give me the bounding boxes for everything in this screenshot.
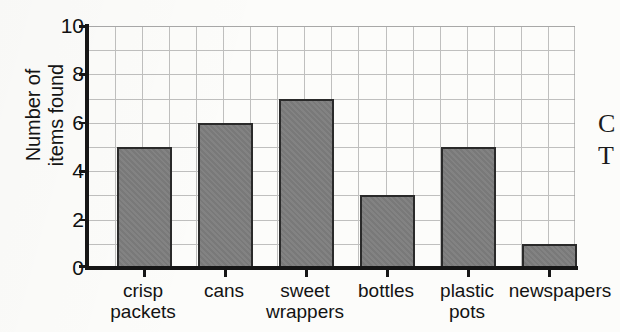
x-tick-mark-cans <box>224 269 227 277</box>
x-axis-label-sweet-wrappers: sweet wrappers <box>265 280 345 322</box>
y-tick-mark-2 <box>79 219 87 222</box>
bar-plastic-pots[interactable] <box>441 147 496 268</box>
x-tick-mark-sweet-wrappers <box>305 269 308 277</box>
chart-page: Number of items found 10 8 6 4 2 0 <box>0 0 620 332</box>
cropped-side-text: C T <box>598 108 620 172</box>
x-axis-label-bottles: bottles <box>346 280 426 301</box>
x-axis-line <box>85 266 578 270</box>
y-tick-mark-10 <box>79 25 87 28</box>
x-tick-mark-bottles <box>386 269 389 277</box>
y-tick-mark-8 <box>79 73 87 76</box>
bar-texture <box>524 246 575 266</box>
bar-texture <box>443 149 494 266</box>
x-axis-label-newspapers: newspapers <box>500 280 620 301</box>
bar-crisp-packets[interactable] <box>117 147 172 268</box>
y-axis-tick-labels: 10 8 6 4 2 0 <box>46 0 84 332</box>
grid-right-border <box>574 26 575 268</box>
y-tick-mark-4 <box>79 170 87 173</box>
bar-texture <box>119 149 170 266</box>
x-axis-label-plastic-pots: plastic pots <box>427 280 507 322</box>
x-axis-label-crisp-packets: crisp packets <box>103 280 183 322</box>
bar-sweet-wrappers[interactable] <box>279 99 334 268</box>
bar-texture <box>200 125 251 266</box>
bar-bottles[interactable] <box>360 195 415 268</box>
bar-texture <box>281 101 332 266</box>
bar-newspapers[interactable] <box>522 244 577 268</box>
x-tick-mark-crisp-packets <box>143 269 146 277</box>
y-tick-mark-0 <box>79 265 87 268</box>
bar-texture <box>362 197 413 266</box>
bar-cans[interactable] <box>198 123 253 268</box>
x-tick-mark-plastic-pots <box>467 269 470 277</box>
y-tick-mark-6 <box>79 122 87 125</box>
plot-area <box>88 26 575 268</box>
y-axis-line <box>85 24 89 270</box>
y-tick-label-0: 0 <box>50 257 84 278</box>
x-tick-mark-newspapers <box>548 269 551 277</box>
grid-top-border <box>88 26 575 27</box>
x-axis-label-cans: cans <box>184 280 264 301</box>
